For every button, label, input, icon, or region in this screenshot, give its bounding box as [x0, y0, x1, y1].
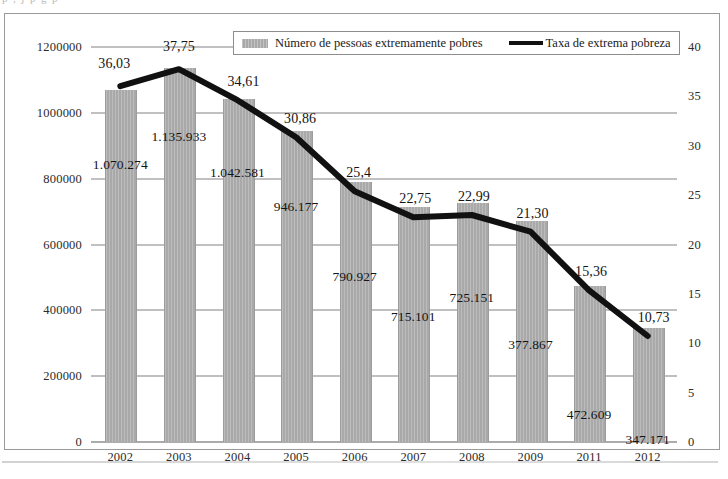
rate-value-label: 21,30 — [473, 206, 593, 222]
chart-page: p , j p g p 0200000400000600000800000100… — [0, 0, 728, 479]
line-swatch-icon — [509, 41, 543, 45]
y-tick-right: 25 — [688, 188, 701, 203]
bar-value-label: 472.609 — [529, 407, 649, 423]
legend-item-bars: Número de pessoas extremamente pobres — [242, 36, 483, 51]
bar-value-label: 946.177 — [236, 199, 356, 215]
bottom-scan-artifact — [2, 461, 718, 463]
rate-value-label: 37,75 — [119, 39, 239, 55]
legend-label-line: Taxa de extrema pobreza — [546, 36, 671, 51]
bar-value-label: 377.867 — [471, 337, 591, 353]
y-tick-left: 600000 — [43, 237, 82, 252]
rate-value-label: 30,86 — [240, 111, 360, 127]
y-tick-left: 1000000 — [37, 105, 82, 120]
bar-swatch-icon — [242, 39, 268, 48]
bar-value-label: 715.101 — [353, 309, 473, 325]
y-tick-right: 15 — [688, 286, 701, 301]
y-tick-left: 400000 — [43, 303, 82, 318]
bar-value-label: 1.042.581 — [178, 165, 298, 181]
top-scan-artifact: p , j p g p — [0, 0, 728, 11]
y-tick-left: 0 — [76, 435, 82, 450]
y-tick-right: 5 — [688, 385, 694, 400]
chart-legend: Número de pessoas extremamente pobres Ta… — [233, 31, 680, 55]
bar-value-label: 1.135.933 — [119, 129, 239, 145]
y-tick-right: 30 — [688, 138, 701, 153]
bar — [164, 68, 196, 442]
rate-value-label: 15,36 — [531, 264, 651, 280]
bar-value-label: 347.171 — [588, 432, 708, 448]
rate-value-label: 34,61 — [184, 74, 304, 90]
rate-value-label: 22,99 — [414, 189, 534, 205]
plot-area: 020000040000060000080000010000001200000 … — [91, 47, 677, 442]
rate-value-label: 25,4 — [299, 165, 419, 181]
legend-item-line: Taxa de extrema pobreza — [509, 36, 671, 51]
bar-value-label: 725.151 — [412, 290, 532, 306]
y-tick-right: 40 — [688, 40, 701, 55]
bar — [633, 328, 665, 442]
bar-value-label: 1.070.274 — [60, 157, 180, 173]
y-tick-left: 800000 — [43, 171, 82, 186]
rate-value-label: 10,73 — [594, 310, 714, 326]
y-tick-left: 1200000 — [37, 40, 82, 55]
y-tick-right: 10 — [688, 336, 701, 351]
y-tick-right: 35 — [688, 89, 701, 104]
rate-value-label: 36,03 — [54, 56, 174, 72]
legend-label-bars: Número de pessoas extremamente pobres — [275, 36, 483, 51]
bar-value-label: 790.927 — [295, 269, 415, 285]
y-tick-left: 200000 — [43, 369, 82, 384]
top-text-fragment: p , j p g p — [0, 0, 728, 4]
bar — [223, 99, 255, 442]
chart-frame: 020000040000060000080000010000001200000 … — [4, 13, 720, 450]
y-tick-right: 20 — [688, 237, 701, 252]
